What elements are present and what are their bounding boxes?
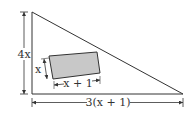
right-triangle: [32, 12, 183, 94]
label-4x: 4x: [17, 48, 31, 61]
label-x: x: [35, 63, 42, 76]
bottom-dimension: 3(x + 1): [32, 96, 183, 109]
triangle-diagram: 4x 3(x + 1) x x + 1: [0, 0, 195, 114]
left-dimension: 4x: [17, 12, 31, 94]
label-x-plus-1: x + 1: [63, 77, 92, 90]
rect-height-dimension: x: [35, 58, 49, 79]
inner-rectangle: [49, 52, 100, 79]
label-3x-plus-1: 3(x + 1): [86, 96, 131, 109]
